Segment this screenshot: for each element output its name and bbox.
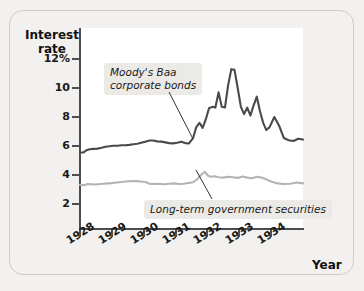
- chart-curves: [0, 0, 364, 291]
- figure-root: Interestrate Year 12%108642 192819291930…: [0, 0, 364, 291]
- series-line: [80, 172, 303, 185]
- baa-leader-line: [169, 92, 193, 139]
- series-line: [80, 69, 303, 152]
- gov-leader-line: [196, 170, 212, 199]
